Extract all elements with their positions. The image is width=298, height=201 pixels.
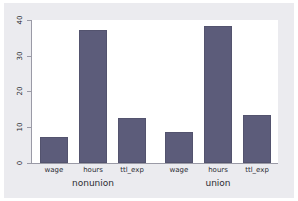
y-tick-label-0: 0 bbox=[13, 156, 27, 170]
y-tick-label-30: 30 bbox=[13, 49, 27, 63]
y-tick-label-40: 40 bbox=[13, 13, 27, 27]
y-tick-mark-30 bbox=[27, 56, 31, 57]
category-label-nonunion-ttl_exp: ttl_exp bbox=[112, 166, 152, 174]
category-label-nonunion-wage: wage bbox=[34, 166, 74, 174]
bar-union-ttl_exp bbox=[243, 115, 271, 163]
chart-screenshot: 0 10 20 30 40 wage hours ttl_exp wage ho… bbox=[0, 0, 298, 201]
y-tick-label-10: 10 bbox=[13, 120, 27, 134]
y-tick-mark-40 bbox=[27, 20, 31, 21]
y-tick-mark-10 bbox=[27, 127, 31, 128]
y-axis-line bbox=[31, 20, 32, 164]
y-tick-label-20: 20 bbox=[13, 84, 27, 98]
group-label-nonunion: nonunion bbox=[43, 178, 143, 188]
category-label-union-wage: wage bbox=[159, 166, 199, 174]
group-label-union: union bbox=[168, 178, 268, 188]
x-axis-line bbox=[31, 163, 278, 164]
bar-nonunion-wage bbox=[40, 137, 68, 163]
category-label-nonunion-hours: hours bbox=[73, 166, 113, 174]
category-label-union-hours: hours bbox=[198, 166, 238, 174]
bar-nonunion-hours bbox=[79, 30, 107, 163]
y-tick-mark-20 bbox=[27, 91, 31, 92]
bar-union-hours bbox=[204, 26, 232, 163]
plot-region bbox=[32, 20, 278, 163]
bar-nonunion-ttl_exp bbox=[118, 118, 146, 163]
category-label-union-ttl_exp: ttl_exp bbox=[237, 166, 277, 174]
y-tick-mark-0 bbox=[27, 163, 31, 164]
bar-union-wage bbox=[165, 132, 193, 163]
